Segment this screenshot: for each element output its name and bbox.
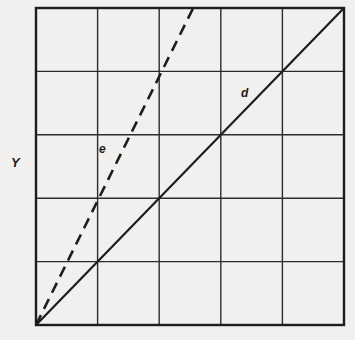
figure-container: Y d e (0, 0, 355, 340)
curve-label-d: d (241, 87, 248, 99)
plot-svg (0, 0, 355, 340)
curve-label-e: e (99, 143, 106, 155)
y-axis-label: Y (11, 156, 20, 169)
